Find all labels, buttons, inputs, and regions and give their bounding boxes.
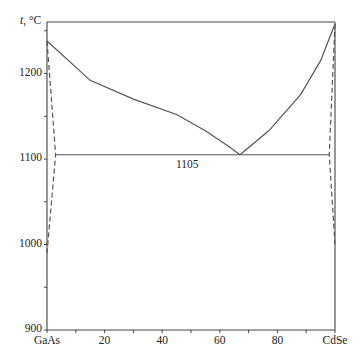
x-tick-label: CdSe xyxy=(315,334,355,346)
y-axis-label: t, °C xyxy=(20,14,41,26)
phase-diagram xyxy=(0,0,364,364)
liquidus-right-curve xyxy=(240,24,335,155)
solvus-CdSe-curve xyxy=(329,24,335,245)
solvus-GaAs-curve xyxy=(47,41,56,253)
y-tick-label: 900 xyxy=(6,322,42,334)
x-tick-label: 60 xyxy=(200,334,240,346)
x-tick-label: 40 xyxy=(142,334,182,346)
eutectic-temperature-label: 1105 xyxy=(176,158,199,170)
y-tick-label: 1100 xyxy=(6,151,42,163)
x-tick-label: GaAs xyxy=(27,334,67,346)
y-tick-label: 1200 xyxy=(6,66,42,78)
liquidus-left-curve xyxy=(47,41,240,155)
y-tick-label: 1000 xyxy=(6,237,42,249)
x-tick-label: 80 xyxy=(257,334,297,346)
x-tick-label: 20 xyxy=(85,334,125,346)
